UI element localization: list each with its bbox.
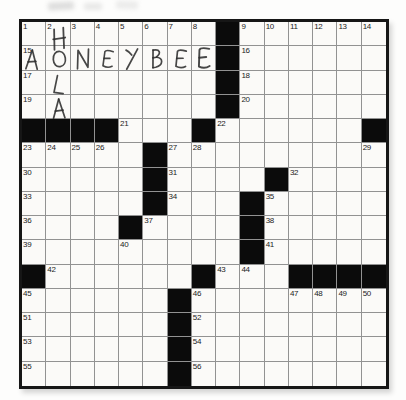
grid-cell[interactable] — [71, 192, 95, 216]
grid-cell[interactable] — [46, 289, 70, 313]
grid-cell[interactable]: 27 — [168, 143, 192, 167]
grid-cell[interactable] — [265, 337, 289, 361]
grid-cell[interactable]: 49 — [337, 289, 361, 313]
grid-cell[interactable]: 29 — [362, 143, 386, 167]
grid-cell[interactable] — [216, 337, 240, 361]
grid-cell[interactable] — [240, 313, 264, 337]
grid-cell[interactable] — [46, 240, 70, 264]
grid-cell[interactable] — [362, 313, 386, 337]
grid-cell[interactable]: 12 — [313, 22, 337, 46]
grid-cell[interactable] — [289, 313, 313, 337]
grid-cell[interactable]: 2 — [46, 22, 70, 46]
grid-cell[interactable] — [46, 362, 70, 386]
grid-cell[interactable] — [216, 240, 240, 264]
grid-cell[interactable] — [337, 337, 361, 361]
grid-cell[interactable] — [95, 71, 119, 95]
grid-cell[interactable] — [362, 46, 386, 70]
grid-cell[interactable] — [95, 192, 119, 216]
grid-cell[interactable]: 55 — [22, 362, 46, 386]
grid-cell[interactable] — [95, 362, 119, 386]
grid-cell[interactable]: 31 — [168, 168, 192, 192]
grid-cell[interactable] — [192, 192, 216, 216]
grid-cell[interactable] — [192, 240, 216, 264]
grid-cell[interactable]: 39 — [22, 240, 46, 264]
grid-cell[interactable]: 42 — [46, 265, 70, 289]
grid-cell[interactable] — [240, 143, 264, 167]
grid-cell[interactable]: 40 — [119, 240, 143, 264]
grid-cell[interactable] — [95, 216, 119, 240]
grid-cell[interactable] — [362, 337, 386, 361]
grid-cell[interactable] — [265, 265, 289, 289]
grid-cell[interactable] — [95, 337, 119, 361]
grid-cell[interactable]: 11 — [289, 22, 313, 46]
grid-cell[interactable] — [119, 168, 143, 192]
grid-cell[interactable] — [289, 192, 313, 216]
grid-cell[interactable]: 43 — [216, 265, 240, 289]
grid-cell[interactable] — [240, 289, 264, 313]
grid-cell[interactable]: 10 — [265, 22, 289, 46]
grid-cell[interactable]: 34 — [168, 192, 192, 216]
grid-cell[interactable] — [337, 119, 361, 143]
grid-cell[interactable] — [119, 71, 143, 95]
grid-cell[interactable] — [289, 46, 313, 70]
grid-cell[interactable] — [95, 289, 119, 313]
grid-cell[interactable] — [95, 240, 119, 264]
grid-cell[interactable] — [313, 313, 337, 337]
grid-cell[interactable] — [265, 119, 289, 143]
grid-cell[interactable] — [168, 46, 192, 70]
grid-cell[interactable]: 50 — [362, 289, 386, 313]
grid-cell[interactable] — [168, 95, 192, 119]
grid-cell[interactable] — [289, 362, 313, 386]
grid-cell[interactable] — [143, 46, 167, 70]
grid-cell[interactable]: 33 — [22, 192, 46, 216]
grid-cell[interactable] — [71, 46, 95, 70]
grid-cell[interactable] — [143, 337, 167, 361]
grid-cell[interactable] — [265, 71, 289, 95]
grid-cell[interactable] — [143, 119, 167, 143]
grid-cell[interactable] — [240, 119, 264, 143]
grid-cell[interactable]: 47 — [289, 289, 313, 313]
grid-cell[interactable]: 28 — [192, 143, 216, 167]
grid-cell[interactable] — [289, 71, 313, 95]
grid-cell[interactable] — [71, 240, 95, 264]
grid-cell[interactable] — [192, 46, 216, 70]
grid-cell[interactable] — [240, 362, 264, 386]
grid-cell[interactable] — [143, 265, 167, 289]
grid-cell[interactable] — [71, 216, 95, 240]
grid-cell[interactable]: 3 — [71, 22, 95, 46]
grid-cell[interactable] — [71, 313, 95, 337]
grid-cell[interactable] — [46, 192, 70, 216]
grid-cell[interactable]: 18 — [240, 71, 264, 95]
grid-cell[interactable]: 20 — [240, 95, 264, 119]
grid-cell[interactable] — [143, 95, 167, 119]
grid-cell[interactable] — [119, 362, 143, 386]
grid-cell[interactable]: 4 — [95, 22, 119, 46]
grid-cell[interactable] — [95, 168, 119, 192]
grid-cell[interactable]: 1 — [22, 22, 46, 46]
grid-cell[interactable]: 35 — [265, 192, 289, 216]
grid-cell[interactable] — [71, 289, 95, 313]
grid-cell[interactable] — [337, 95, 361, 119]
grid-cell[interactable] — [143, 71, 167, 95]
grid-cell[interactable] — [337, 313, 361, 337]
grid-cell[interactable] — [71, 265, 95, 289]
grid-cell[interactable] — [168, 265, 192, 289]
grid-cell[interactable]: 19 — [22, 95, 46, 119]
grid-cell[interactable] — [71, 95, 95, 119]
grid-cell[interactable]: 9 — [240, 22, 264, 46]
grid-cell[interactable] — [337, 168, 361, 192]
grid-cell[interactable] — [265, 362, 289, 386]
grid-cell[interactable] — [265, 143, 289, 167]
grid-cell[interactable] — [337, 240, 361, 264]
grid-cell[interactable] — [119, 289, 143, 313]
grid-cell[interactable]: 41 — [265, 240, 289, 264]
grid-cell[interactable]: 8 — [192, 22, 216, 46]
grid-cell[interactable] — [46, 337, 70, 361]
grid-cell[interactable] — [362, 192, 386, 216]
grid-cell[interactable]: 30 — [22, 168, 46, 192]
grid-cell[interactable] — [119, 337, 143, 361]
grid-cell[interactable] — [313, 168, 337, 192]
grid-cell[interactable]: 32 — [289, 168, 313, 192]
grid-cell[interactable] — [313, 71, 337, 95]
grid-cell[interactable] — [192, 216, 216, 240]
